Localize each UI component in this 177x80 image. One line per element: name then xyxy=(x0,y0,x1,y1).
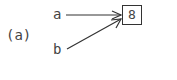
arrows xyxy=(0,0,177,80)
arrow-b-to-box xyxy=(67,19,121,49)
